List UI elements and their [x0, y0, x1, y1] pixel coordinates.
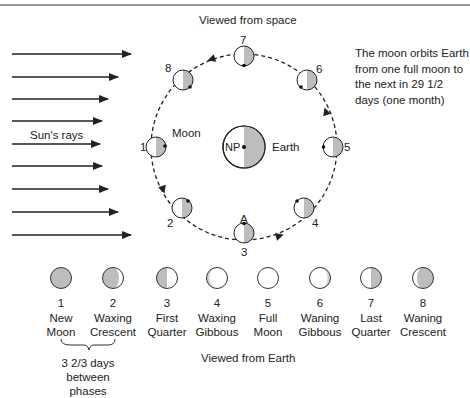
orbit-moon-5	[322, 137, 343, 157]
orbit-number-3: 3	[241, 245, 247, 259]
phase-name-line2: Crescent	[388, 325, 458, 340]
orbit-number-4: 4	[312, 216, 318, 230]
orbit-number-6: 6	[316, 62, 322, 76]
interval-line2: between phases	[48, 370, 128, 398]
phase-icon-full-moon	[258, 268, 279, 289]
phase-icons	[51, 268, 434, 289]
orbit-moon-8	[173, 70, 193, 90]
north-pole-label: NP	[225, 140, 240, 154]
phase-icon-new-moon	[51, 268, 72, 289]
phase-icon-first-quarter	[157, 268, 178, 289]
earth-label: Earth	[272, 140, 300, 154]
phase-label-8: 8 Waning Crescent	[388, 296, 458, 340]
phase-name-line1: Waning	[388, 311, 458, 326]
orbit-moon-7	[234, 46, 254, 67]
north-pole-dot	[242, 145, 246, 149]
phase-icon-waxing-crescent	[103, 268, 124, 289]
orbit-number-7: 7	[240, 33, 246, 47]
phase-icon-waning-crescent	[413, 268, 434, 289]
interval-line1: 3 2/3 days	[48, 356, 128, 370]
arrowhead-icon	[206, 54, 216, 64]
sun-rays-label: Sun's rays	[30, 128, 83, 142]
sun-rays	[12, 54, 131, 235]
phase-icon-waning-gibbous	[310, 268, 331, 289]
phase-icon-last-quarter	[361, 268, 382, 289]
interval-brace	[61, 339, 115, 350]
title-viewed-from-space: Viewed from space	[199, 13, 297, 27]
orbit-note: The moon orbits Earth from one full moon…	[355, 46, 470, 108]
arrowhead-icon	[158, 185, 168, 195]
phase-number: 8	[388, 296, 458, 311]
point-a-label: A	[240, 212, 248, 226]
title-viewed-from-earth: Viewed from Earth	[201, 351, 295, 365]
orbit-number-2: 2	[167, 216, 173, 230]
phase-icon-waxing-gibbous	[207, 268, 228, 289]
orbit-moon-2	[172, 198, 192, 218]
interval-label: 3 2/3 days between phases	[48, 356, 128, 398]
orbit-moon-6	[297, 70, 317, 90]
orbit-moon-4	[294, 198, 314, 218]
orbit-moon-1	[146, 137, 167, 157]
orbit-number-8: 8	[165, 61, 171, 75]
orbit-number-1: 1	[140, 140, 146, 154]
orbit-number-5: 5	[344, 140, 350, 154]
moon-label: Moon	[172, 126, 201, 140]
